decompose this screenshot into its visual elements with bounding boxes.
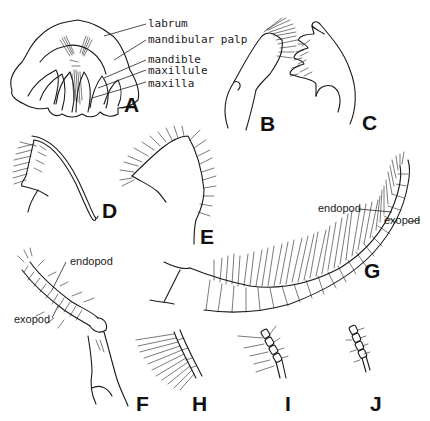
label-f-exopod: exopod [14, 314, 50, 325]
label-f-endopod: endopod [70, 256, 113, 267]
panel-h-drawing [136, 330, 202, 390]
label-maxillule: maxillule [148, 65, 208, 76]
panel-letter-h: H [192, 393, 207, 414]
label-maxilla: maxilla [148, 78, 194, 89]
panel-letter-d: D [102, 200, 117, 221]
panel-letter-c: C [362, 112, 377, 133]
panel-letter-i: I [285, 393, 291, 414]
panel-i-drawing [238, 326, 288, 378]
panel-letter-a: A [124, 94, 139, 115]
panel-c-drawing [290, 22, 355, 124]
scientific-figure: labrum mandibular palp mandible maxillul… [0, 0, 430, 421]
panel-letter-e: E [200, 226, 214, 247]
panel-letter-f: F [136, 393, 149, 414]
panel-letter-g: G [364, 260, 380, 281]
label-labrum: labrum [148, 18, 188, 29]
panel-g-drawing [150, 152, 420, 312]
panel-d-drawing [13, 136, 98, 220]
figure-drawings [0, 0, 430, 421]
panel-j-drawing [346, 325, 370, 372]
label-g-endopod: endopod [318, 203, 361, 214]
panel-letter-j: J [370, 393, 382, 414]
panel-letter-b: B [260, 113, 275, 134]
panel-f-drawing [18, 248, 128, 406]
label-g-exopod: exopod [384, 215, 420, 226]
label-mandibular-palp: mandibular palp [148, 34, 247, 45]
